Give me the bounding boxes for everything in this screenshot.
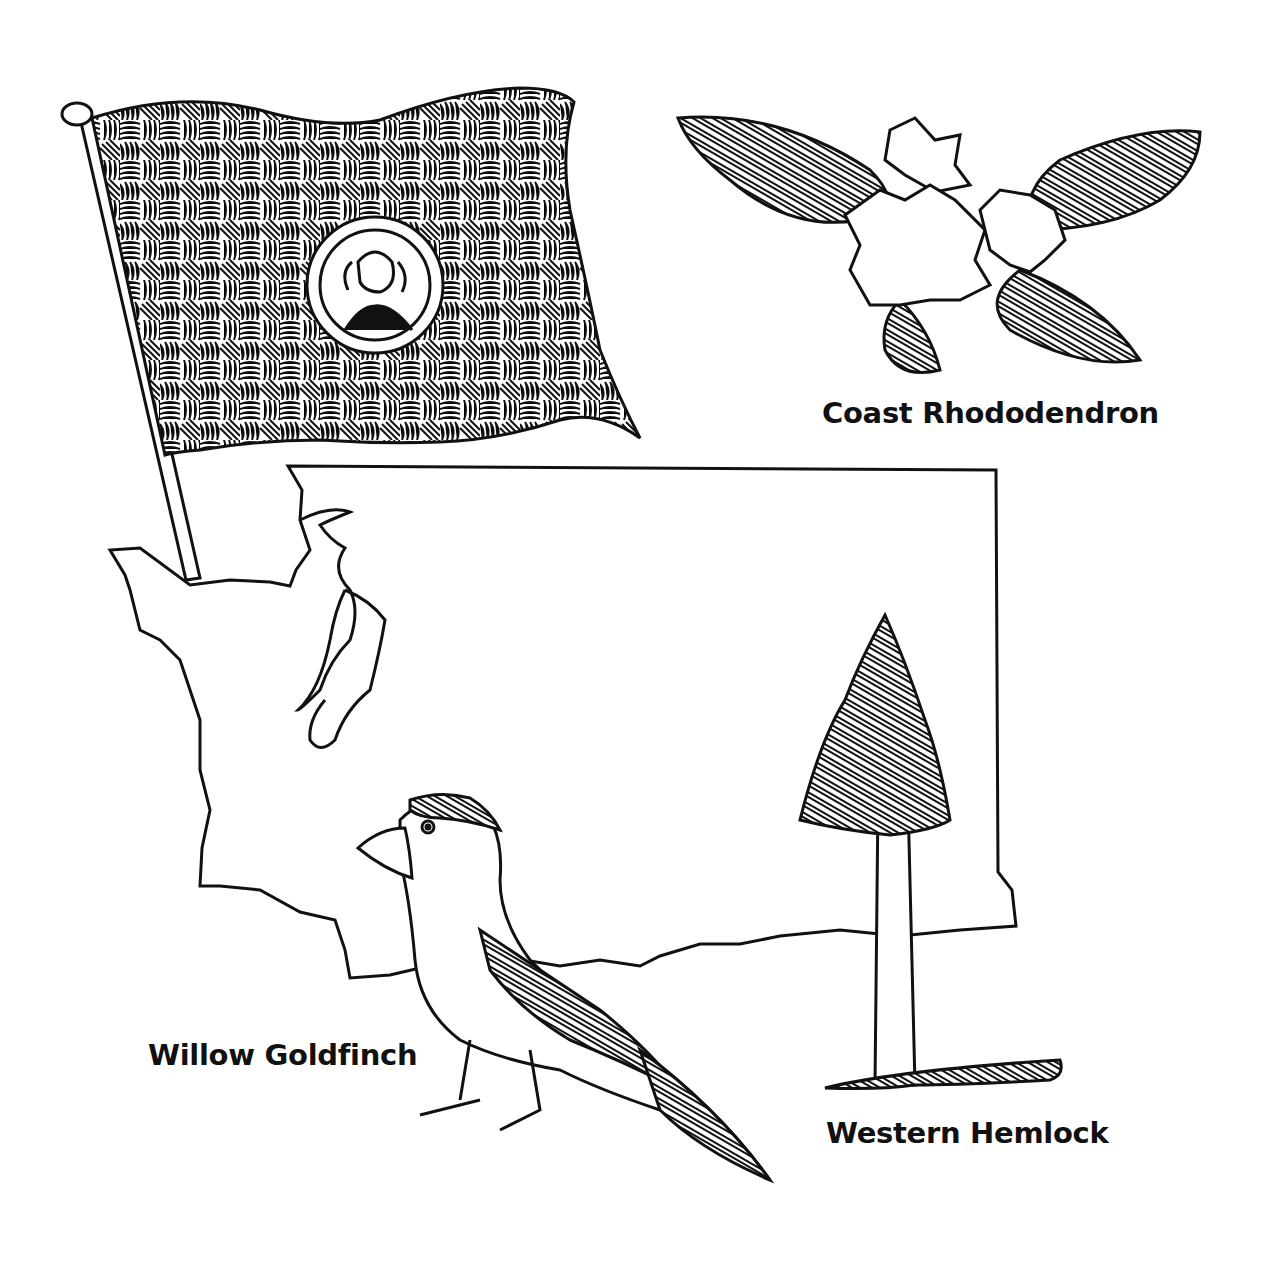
hemlock-tree: [800, 615, 1061, 1089]
label-coast-rhododendron: Coast Rhododendron: [822, 396, 1159, 430]
illustration-canvas: [0, 0, 1267, 1264]
state-flag: [92, 88, 640, 455]
label-willow-goldfinch: Willow Goldfinch: [148, 1038, 417, 1072]
goldfinch: [358, 794, 770, 1180]
rhododendron: [678, 117, 1200, 372]
label-western-hemlock: Western Hemlock: [826, 1116, 1108, 1150]
